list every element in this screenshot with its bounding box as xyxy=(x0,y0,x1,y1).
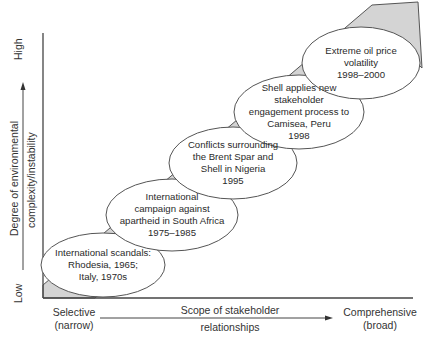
event-4-line: engagement process to xyxy=(249,106,349,118)
x-axis-right-label-line1: Comprehensive xyxy=(335,306,425,319)
event-3-line: Shell in Nigeria xyxy=(188,163,278,175)
event-1-line: Italy, 1970s xyxy=(55,271,151,283)
event-2-line: apartheid in South Africa xyxy=(120,215,225,227)
x-axis-title-line1: Scope of stakeholder xyxy=(160,304,300,317)
event-text-3: Conflicts surrounding the Brent Spar and… xyxy=(188,139,278,187)
event-2-line: campaign against xyxy=(120,203,225,215)
event-text-2: International campaign against apartheid… xyxy=(120,191,225,239)
y-direction-arrowhead-icon xyxy=(21,82,26,90)
event-1-line: Rhodesia, 1965; xyxy=(55,259,151,271)
x-axis-right-label-line2: (broad) xyxy=(335,319,425,332)
event-5-line: volatility xyxy=(325,57,396,69)
event-4-line: stakeholder xyxy=(249,94,349,106)
event-4-line: 1998 xyxy=(249,130,349,142)
event-4-line: Shell applies new xyxy=(249,82,349,94)
event-3-line: the Brent Spar and xyxy=(188,151,278,163)
y-axis-low-label: Low xyxy=(12,284,24,303)
x-direction-arrowhead-icon xyxy=(325,316,333,321)
event-5-line: 1998–2000 xyxy=(325,69,396,81)
event-text-4: Shell applies new stakeholder engagement… xyxy=(249,82,349,142)
event-5-line: Extreme oil price xyxy=(325,45,396,57)
y-axis-title-line2: complexity/instability xyxy=(25,132,37,228)
event-4-line: Camisea, Peru xyxy=(249,118,349,130)
y-axis-title-line1: Degree of environmental xyxy=(8,121,20,236)
x-axis-left-label: Selective (narrow) xyxy=(44,306,104,332)
event-2-line: 1975–1985 xyxy=(120,227,225,239)
event-3-line: 1995 xyxy=(188,175,278,187)
y-axis-high-label: High xyxy=(12,38,24,60)
event-text-1: International scandals: Rhodesia, 1965; … xyxy=(55,247,151,283)
x-axis-right-label: Comprehensive (broad) xyxy=(335,306,425,332)
x-axis-left-label-line2: (narrow) xyxy=(44,319,104,332)
event-2-line: International xyxy=(120,191,225,203)
x-axis-title-line2: relationships xyxy=(160,321,300,334)
event-text-5: Extreme oil price volatility 1998–2000 xyxy=(325,45,396,81)
event-1-line: International scandals: xyxy=(55,247,151,259)
x-axis-left-label-line1: Selective xyxy=(44,306,104,319)
